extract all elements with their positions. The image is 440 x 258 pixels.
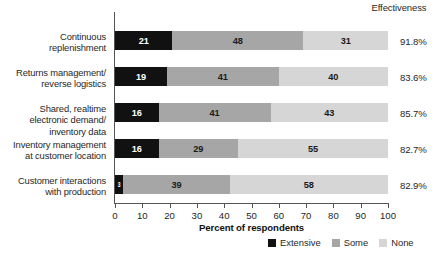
bar-segment-value: 16 <box>132 108 142 118</box>
tick-label: 100 <box>373 210 403 221</box>
row-category-label: Continuous replenishment <box>0 31 106 54</box>
tick-mark <box>306 203 307 208</box>
legend-item-extensive: Extensive <box>268 237 321 248</box>
x-axis-title: Percent of respondents <box>115 222 388 233</box>
row-category-label: Shared, realtime electronic demand/ inve… <box>0 103 106 137</box>
bar-segment-none: 55 <box>238 139 388 158</box>
chart-row: Inventory management at customer locatio… <box>115 139 388 158</box>
legend-item-some: Some <box>332 237 369 248</box>
chart-legend: ExtensiveSomeNone <box>268 237 414 248</box>
effectiveness-value: 83.6% <box>400 71 440 82</box>
tick-label: 70 <box>291 210 321 221</box>
chart-row: Continuous replenishment21483191.8% <box>115 31 388 50</box>
legend-item-none: None <box>379 237 413 248</box>
bar-segment-extensive: 16 <box>115 139 159 158</box>
effectiveness-column-header: Effectiveness <box>360 2 438 13</box>
bar-segment-value: 3 <box>118 180 121 189</box>
stacked-bar: 16295582.7% <box>115 139 388 158</box>
bar-segment-none: 58 <box>230 175 388 194</box>
bar-segment-some: 39 <box>123 175 229 194</box>
bar-segment-value: 58 <box>304 180 314 190</box>
tick-mark <box>115 203 116 208</box>
tick-mark <box>388 203 389 208</box>
bar-segment-some: 41 <box>167 67 279 86</box>
row-category-label: Customer interactions with production <box>0 175 106 198</box>
bar-segment-extensive: 21 <box>115 31 172 50</box>
tick-mark <box>197 203 198 208</box>
tick-label: 0 <box>100 210 130 221</box>
stacked-bar: 16414385.7% <box>115 103 388 122</box>
bar-segment-extensive: 16 <box>115 103 159 122</box>
tick-label: 30 <box>182 210 212 221</box>
tick-label: 80 <box>318 210 348 221</box>
stacked-bar: 3395882.9% <box>115 175 388 194</box>
tick-label: 40 <box>209 210 239 221</box>
stacked-bar: 21483191.8% <box>115 31 388 50</box>
legend-label: Some <box>344 237 369 248</box>
bar-segment-value: 39 <box>171 180 181 190</box>
bar-segment-value: 16 <box>132 144 142 154</box>
plot-area: Continuous replenishment21483191.8%Retur… <box>115 14 388 202</box>
row-category-label: Inventory management at customer locatio… <box>0 139 106 162</box>
bar-segment-value: 40 <box>328 72 338 82</box>
bar-segment-value: 19 <box>136 72 146 82</box>
bar-segment-value: 21 <box>139 36 149 46</box>
row-category-label: Returns management/ reverse logistics <box>0 67 106 90</box>
tick-label: 90 <box>346 210 376 221</box>
bar-segment-value: 29 <box>193 144 203 154</box>
bar-segment-none: 31 <box>303 31 388 50</box>
tick-mark <box>142 203 143 208</box>
legend-swatch-icon <box>379 239 387 247</box>
tick-label: 60 <box>264 210 294 221</box>
tick-label: 20 <box>155 210 185 221</box>
bar-segment-value: 43 <box>324 108 334 118</box>
effectiveness-value: 82.7% <box>400 143 440 154</box>
effectiveness-value: 82.9% <box>400 179 440 190</box>
legend-label: None <box>391 237 413 248</box>
tick-label: 10 <box>127 210 157 221</box>
bar-segment-extensive: 19 <box>115 67 167 86</box>
effectiveness-value: 85.7% <box>400 107 440 118</box>
chart-row: Shared, realtime electronic demand/ inve… <box>115 103 388 122</box>
tick-mark <box>170 203 171 208</box>
tick-mark <box>333 203 334 208</box>
tick-label: 50 <box>237 210 267 221</box>
bar-segment-some: 41 <box>159 103 271 122</box>
tick-mark <box>224 203 225 208</box>
chart-row: Returns management/ reverse logistics194… <box>115 67 388 86</box>
stacked-bar: 19414083.6% <box>115 67 388 86</box>
bar-segment-none: 43 <box>271 103 388 122</box>
bar-segment-value: 41 <box>210 108 220 118</box>
bar-segment-none: 40 <box>279 67 388 86</box>
bar-segment-some: 29 <box>159 139 238 158</box>
effectiveness-value: 91.8% <box>400 35 440 46</box>
chart-row: Customer interactions with production339… <box>115 175 388 194</box>
bar-segment-value: 48 <box>233 36 243 46</box>
bar-segment-some: 48 <box>172 31 303 50</box>
bar-segment-extensive: 3 <box>115 175 123 194</box>
legend-label: Extensive <box>280 237 321 248</box>
tick-mark <box>252 203 253 208</box>
legend-swatch-icon <box>332 239 340 247</box>
tick-mark <box>279 203 280 208</box>
bar-segment-value: 31 <box>341 36 351 46</box>
bar-segment-value: 41 <box>218 72 228 82</box>
tick-mark <box>361 203 362 208</box>
chart-figure: Effectiveness Continuous replenishment21… <box>0 0 440 258</box>
legend-swatch-icon <box>268 239 276 247</box>
bar-segment-value: 55 <box>308 144 318 154</box>
